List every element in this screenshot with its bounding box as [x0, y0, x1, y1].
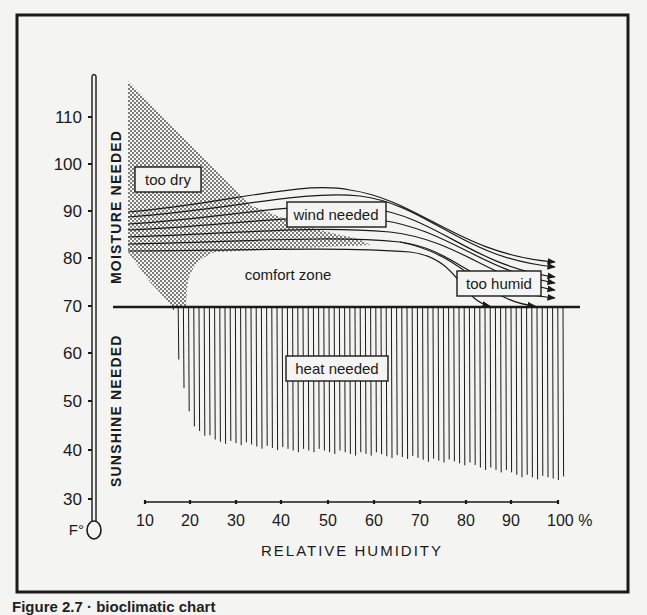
y-tick-30: 30 [63, 490, 82, 509]
svg-text:too dry: too dry [145, 171, 191, 188]
x-axis-title: RELATIVE HUMIDITY [261, 542, 443, 559]
y-tick-100: 100 [54, 155, 82, 174]
x-axis [144, 500, 559, 504]
thermometer-bulb-icon [87, 521, 101, 539]
x-tick-40: 40 [272, 512, 290, 529]
y-tick-90: 90 [63, 202, 82, 221]
sunshine-needed-label: SUNSHINE NEEDED [108, 334, 124, 487]
y-tick-50: 50 [63, 392, 82, 411]
x-tick-60: 60 [365, 512, 383, 529]
x-tick-30: 30 [227, 512, 245, 529]
y-axis-unit: F° [69, 521, 84, 538]
x-tick-10: 10 [136, 512, 154, 529]
label-comfort-zone: comfort zone [245, 266, 332, 283]
x-tick-70: 70 [411, 512, 429, 529]
svg-text:too humid: too humid [466, 275, 532, 292]
x-tick-20: 20 [181, 512, 199, 529]
moisture-needed-label: MOISTURE NEEDED [108, 130, 124, 284]
label-wind-needed: wind needed [287, 202, 386, 227]
y-tick-60: 60 [63, 344, 82, 363]
y-tick-110: 110 [55, 108, 82, 127]
x-tick-90: 90 [502, 512, 520, 529]
x-tick-100: 100 % [547, 512, 592, 529]
y-tick-80: 80 [63, 249, 82, 268]
x-tick-labels: 10 20 30 40 50 60 70 80 90 100 % [136, 512, 592, 529]
thermometer-axis [87, 75, 101, 540]
label-too-humid: too humid [457, 271, 541, 296]
chart-frame [17, 15, 628, 592]
x-tick-80: 80 [457, 512, 475, 529]
y-tick-70: 70 [63, 297, 82, 316]
y-tick-40: 40 [63, 441, 82, 460]
svg-text:heat needed: heat needed [295, 360, 378, 377]
svg-text:wind needed: wind needed [292, 206, 378, 223]
figure-caption: Figure 2.7 · bioclimatic chart [12, 598, 215, 615]
x-tick-50: 50 [319, 512, 337, 529]
y-tick-labels: 110 100 90 80 70 60 50 40 30 F° [54, 108, 84, 538]
label-too-dry: too dry [135, 167, 201, 192]
label-heat-needed: heat needed [286, 356, 388, 381]
heat-needed-region [173, 308, 564, 480]
